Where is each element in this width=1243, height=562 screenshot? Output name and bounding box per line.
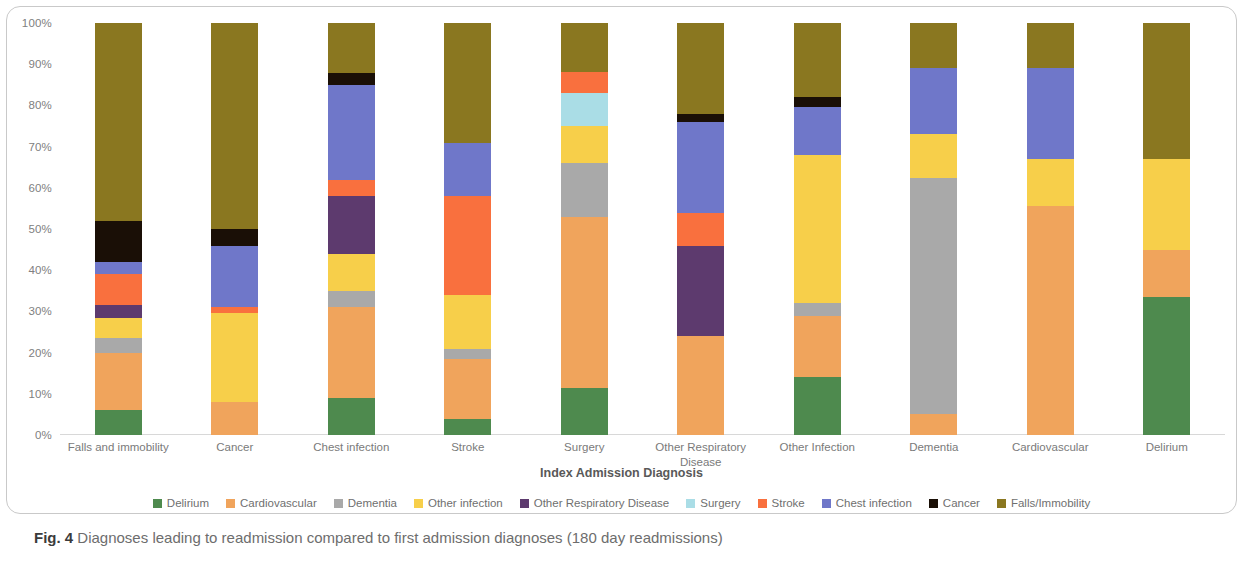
bar-segment (677, 246, 724, 337)
legend-label: Falls/Immobility (1011, 497, 1090, 509)
bar-segment (211, 23, 258, 229)
stacked-bar[interactable] (677, 23, 724, 435)
bar-segment (328, 254, 375, 291)
bar-segment (677, 23, 724, 114)
stacked-bar[interactable] (211, 23, 258, 435)
stacked-bar[interactable] (1027, 23, 1074, 435)
legend-label: Chest infection (836, 497, 912, 509)
legend-item[interactable]: Dementia (334, 497, 397, 509)
bar-segment (95, 23, 142, 221)
y-axis-tick: 40% (28, 264, 60, 276)
bar-segment (95, 221, 142, 262)
legend-item[interactable]: Surgery (686, 497, 740, 509)
bar-segment (95, 262, 142, 274)
bar-segment (677, 336, 724, 435)
stacked-bar[interactable] (561, 23, 608, 435)
bar-segment (95, 318, 142, 339)
legend-label: Dementia (348, 497, 397, 509)
stacked-bar[interactable] (910, 23, 957, 435)
bar-segment (95, 305, 142, 317)
y-axis-tick: 90% (28, 58, 60, 70)
bar-segment (95, 274, 142, 305)
legend-item[interactable]: Cancer (929, 497, 980, 509)
figure-caption: Fig. 4 Diagnoses leading to readmission … (34, 528, 1223, 548)
legend-swatch-icon (758, 499, 767, 508)
legend-swatch-icon (226, 499, 235, 508)
bar-segment (561, 217, 608, 388)
legend-label: Cancer (943, 497, 980, 509)
bar-segment (561, 163, 608, 217)
bar-segment (794, 155, 841, 303)
bar-segment (794, 316, 841, 378)
bar-segment (444, 349, 491, 359)
x-axis-title: Index Admission Diagnosis (0, 466, 1243, 480)
bar-slot (759, 23, 876, 435)
stacked-bar[interactable] (328, 23, 375, 435)
legend-label: Cardiovascular (240, 497, 317, 509)
stacked-bar[interactable] (1143, 23, 1190, 435)
bar-segment (561, 126, 608, 163)
y-axis-tick: 50% (28, 223, 60, 235)
bar-segment (794, 23, 841, 97)
legend-swatch-icon (153, 499, 162, 508)
y-axis-tick: 10% (28, 388, 60, 400)
legend-swatch-icon (334, 499, 343, 508)
bar-slot (1109, 23, 1226, 435)
legend-item[interactable]: Other infection (414, 497, 503, 509)
figure-number: Fig. 4 (34, 529, 73, 546)
legend-item[interactable]: Cardiovascular (226, 497, 317, 509)
legend-swatch-icon (929, 499, 938, 508)
bar-slot (526, 23, 643, 435)
bar-segment (1027, 159, 1074, 206)
bar-segment (910, 134, 957, 177)
bar-segment (211, 229, 258, 245)
legend-item[interactable]: Delirium (153, 497, 209, 509)
bar-segment (444, 295, 491, 349)
bar-segment (794, 97, 841, 107)
bar-segment (95, 338, 142, 352)
bar-segment (328, 180, 375, 196)
bar-slot (410, 23, 527, 435)
stacked-bar[interactable] (444, 23, 491, 435)
bar-segment (211, 313, 258, 402)
bar-segment (211, 246, 258, 308)
legend-item[interactable]: Falls/Immobility (997, 497, 1090, 509)
stacked-bar[interactable] (794, 23, 841, 435)
bar-segment (561, 388, 608, 435)
bar-segment (328, 85, 375, 180)
bar-segment (444, 143, 491, 197)
legend-swatch-icon (822, 499, 831, 508)
legend-item[interactable]: Chest infection (822, 497, 912, 509)
legend-label: Surgery (700, 497, 740, 509)
bar-slot (876, 23, 993, 435)
bar-segment (95, 353, 142, 411)
bar-segment (794, 377, 841, 435)
caption-text: Diagnoses leading to readmission compare… (73, 529, 723, 546)
bar-segment (328, 73, 375, 85)
legend-item[interactable]: Other Respiratory Disease (520, 497, 670, 509)
legend-swatch-icon (997, 499, 1006, 508)
bar-segment (211, 402, 258, 435)
stacked-bars (60, 23, 1225, 435)
bar-segment (910, 414, 957, 435)
bar-segment (910, 178, 957, 415)
bar-segment (444, 23, 491, 142)
bar-segment (1143, 250, 1190, 297)
legend-item[interactable]: Stroke (758, 497, 805, 509)
bar-segment (794, 303, 841, 315)
bar-segment (1027, 23, 1074, 68)
bar-segment (444, 196, 491, 295)
legend-label: Other infection (428, 497, 503, 509)
y-axis-tick: 100% (22, 17, 60, 29)
y-axis-tick: 20% (28, 347, 60, 359)
y-axis-tick: 60% (28, 182, 60, 194)
legend-label: Stroke (772, 497, 805, 509)
stacked-bar[interactable] (95, 23, 142, 435)
bar-slot (293, 23, 410, 435)
legend-label: Other Respiratory Disease (534, 497, 670, 509)
bar-segment (677, 213, 724, 246)
bar-segment (1143, 23, 1190, 159)
y-axis-tick: 80% (28, 99, 60, 111)
bar-segment (1027, 68, 1074, 159)
legend-swatch-icon (414, 499, 423, 508)
